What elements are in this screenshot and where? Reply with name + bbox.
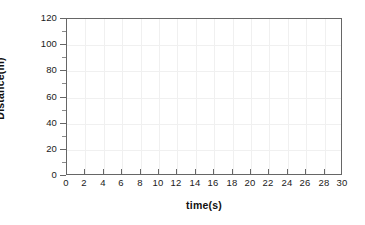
plot-area	[66, 18, 342, 175]
x-axis-tick	[232, 169, 233, 175]
x-axis-tick	[195, 169, 196, 175]
x-axis-tick	[176, 169, 177, 175]
x-axis-tick	[324, 169, 325, 175]
x-axis-tick	[84, 169, 85, 175]
y-axis-tick-label: 40	[5, 118, 57, 128]
x-axis-tick	[140, 169, 141, 175]
x-axis-tick	[250, 169, 251, 175]
x-axis-tick	[287, 169, 288, 175]
x-axis-tick	[213, 169, 214, 175]
x-axis-tick-label: 30	[329, 178, 355, 188]
x-axis-tick	[103, 169, 104, 175]
x-axis-tick	[121, 169, 122, 175]
x-axis-tick	[268, 169, 269, 175]
y-axis-tick-label: 120	[5, 13, 57, 23]
y-axis-tick	[60, 175, 66, 176]
y-axis-tick-label: 60	[5, 92, 57, 102]
data-series-layer	[67, 19, 341, 174]
y-axis-tick-label: 0	[5, 170, 57, 180]
x-axis-tick	[158, 169, 159, 175]
x-axis-title: time(s)	[66, 199, 342, 212]
y-axis-tick-label: 80	[5, 65, 57, 75]
y-axis-tick-label: 20	[5, 144, 57, 154]
x-axis-tick	[305, 169, 306, 175]
y-axis-tick-label: 100	[5, 39, 57, 49]
chart-figure: Distance(m) 020406080100120 024681012141…	[0, 0, 365, 225]
